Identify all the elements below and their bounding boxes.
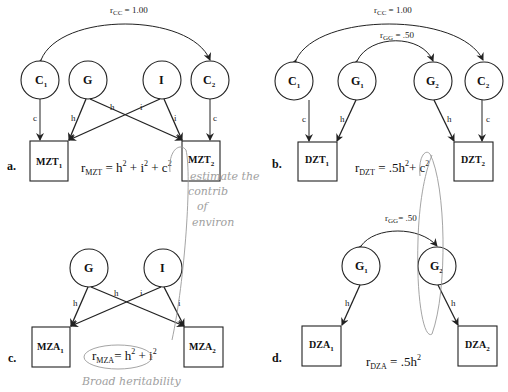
svg-text:I: I — [160, 261, 165, 275]
node-i: I — [143, 61, 181, 99]
svg-text:I: I — [159, 73, 164, 87]
box-dzt2: DZT2 — [454, 142, 493, 181]
path-label-h-right: h — [447, 114, 452, 124]
node-g1: G1 — [338, 62, 376, 100]
path-label-c-right: c — [486, 114, 490, 124]
handwritten-note-line3: of — [197, 200, 210, 213]
path-label-c-right: c — [213, 113, 217, 123]
correlation-cc-label: rCC = 1.00 — [374, 5, 412, 17]
node-g: G — [69, 61, 107, 99]
path-label-h-right: h — [451, 298, 456, 308]
handwritten-note-line4: environ — [192, 216, 234, 229]
path-h-cross — [91, 287, 184, 326]
path-i-right — [164, 287, 184, 326]
path-label-i-right: i — [174, 113, 177, 123]
panel-c: G I h h i i MZA1 MZA2 c. rMZA= h2 + i2 — [8, 249, 223, 367]
path-label-h-cross: h — [114, 288, 119, 298]
panel-label-a: a. — [7, 159, 16, 173]
panel-label-d: d. — [272, 351, 282, 365]
box-dza1: DZA1 — [302, 326, 341, 366]
path-label-h-cross: h — [110, 102, 115, 112]
node-g1: G1 — [342, 247, 380, 285]
handwritten-note-line1: estimate the — [190, 170, 260, 183]
node-i: I — [144, 249, 182, 287]
node-g2: G2 — [418, 247, 456, 285]
path-label-h-left: h — [345, 298, 350, 308]
path-label-c-left: c — [302, 114, 306, 124]
equation-mza: rMZA= h2 + i2 — [92, 347, 157, 365]
box-dzt1: DZT1 — [298, 142, 337, 181]
panel-b: rCC = 1.00 rGG = .50 C1 G1 G2 C2 c h h c — [272, 5, 503, 181]
correlation-cc-label: rCC = 1.00 — [110, 5, 148, 17]
node-c2: C2 — [465, 62, 503, 100]
path-h-cross — [90, 99, 182, 140]
path-label-i-cross: i — [140, 288, 143, 298]
path-i-cross — [69, 99, 160, 140]
node-c2: C2 — [191, 61, 229, 99]
panel-label-b: b. — [272, 157, 282, 171]
correlation-cc-arc — [41, 24, 210, 60]
handwritten-note-broad-heritability: Broad heritability — [81, 375, 181, 388]
node-g: G — [70, 249, 108, 287]
box-mza1: MZA1 — [32, 327, 70, 367]
handwritten-loop-right — [418, 152, 443, 334]
box-mza2: MZA2 — [184, 327, 223, 367]
node-g2: G2 — [414, 62, 452, 100]
equation-dza: rDZA = .5h2 — [366, 353, 421, 371]
correlation-gg-label: rGG= .50 — [385, 213, 417, 225]
node-c1: C1 — [21, 61, 59, 99]
path-label-h-left: h — [71, 113, 76, 123]
box-mzt1: MZT1 — [30, 141, 68, 181]
correlation-cc-arc — [296, 24, 483, 60]
panel-label-c: c. — [8, 351, 16, 365]
path-label-h-left: h — [340, 114, 345, 124]
correlation-gg-arc — [361, 231, 437, 246]
svg-text:G: G — [83, 73, 92, 87]
equation-mzt: rMZT = h2 + i2 + c2 — [81, 159, 172, 177]
panel-a: rCC = 1.00 C1 G I C2 c h h i i c — [7, 5, 229, 181]
handwritten-note-line2: contrib — [188, 185, 228, 198]
equation-dzt: rDZT = .5h2+ c2 — [355, 159, 429, 177]
path-label-c-left: c — [33, 113, 37, 123]
correlation-gg-label: rGG = .50 — [380, 30, 414, 42]
correlation-gg-arc — [357, 41, 433, 61]
node-c1: C1 — [275, 62, 313, 100]
twin-model-diagram: rCC = 1.00 C1 G I C2 c h h i i c — [0, 0, 508, 392]
path-label-h-left: h — [73, 298, 78, 308]
svg-text:G: G — [84, 261, 93, 275]
panel-d: rGG= .50 G1 G2 h h DZA1 DZA2 d. rDZA = .… — [272, 213, 497, 371]
box-dza2: DZA2 — [458, 326, 497, 366]
